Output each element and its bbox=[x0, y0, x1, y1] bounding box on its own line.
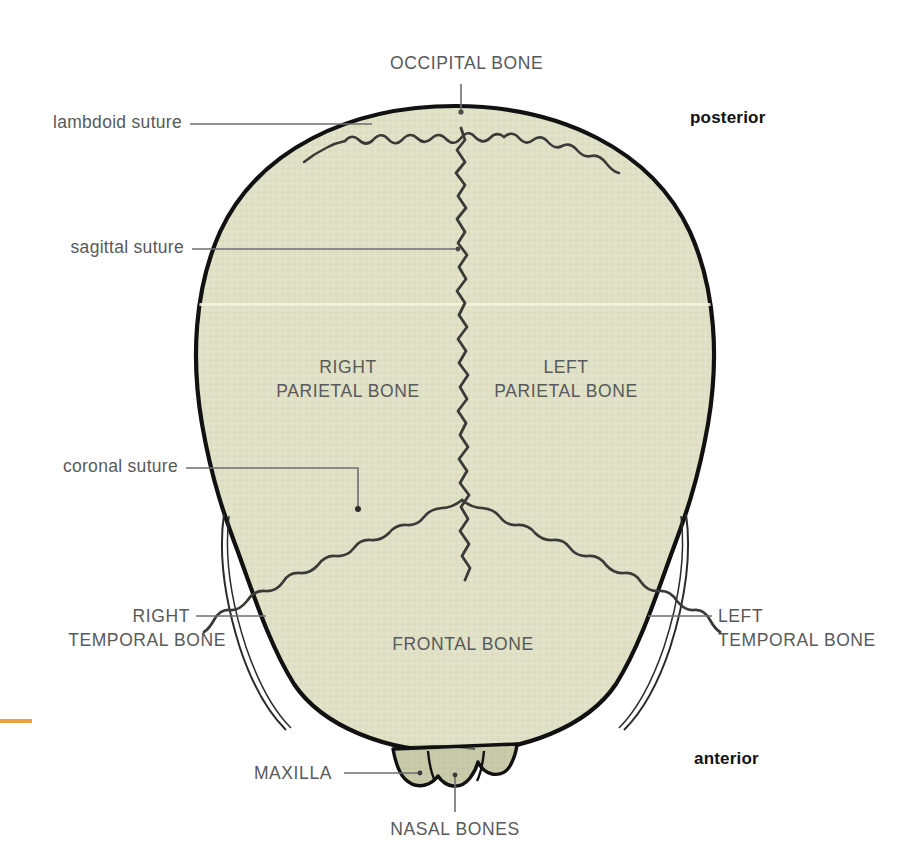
figure-canvas: OCCIPITAL BONE lambdoid suture sagittal … bbox=[0, 0, 899, 866]
orientation-label-posterior: posterior bbox=[690, 108, 765, 128]
label-right-parietal-bone: RIGHT PARIETAL BONE bbox=[268, 356, 428, 403]
label-frontal-bone: FRONTAL BONE bbox=[378, 633, 548, 657]
label-occipital-bone: OCCIPITAL BONE bbox=[390, 52, 535, 76]
label-lambdoid-suture: lambdoid suture bbox=[0, 111, 182, 135]
label-left-temporal-bone-line1: LEFT bbox=[718, 605, 898, 629]
label-nasal-bones: NASAL BONES bbox=[370, 818, 540, 842]
label-left-parietal-bone-line1: LEFT bbox=[486, 356, 646, 380]
label-left-parietal-bone: LEFT PARIETAL BONE bbox=[486, 356, 646, 403]
scan-line-artifact bbox=[0, 303, 899, 306]
label-sagittal-suture: sagittal suture bbox=[0, 236, 184, 260]
label-coronal-suture: coronal suture bbox=[0, 455, 178, 479]
label-right-parietal-bone-line2: PARIETAL BONE bbox=[268, 380, 428, 404]
label-maxilla: MAXILLA bbox=[180, 762, 332, 786]
label-right-temporal-bone: RIGHT TEMPORAL BONE bbox=[10, 605, 190, 652]
label-right-parietal-bone-line1: RIGHT bbox=[268, 356, 428, 380]
label-left-temporal-bone: LEFT TEMPORAL BONE bbox=[718, 605, 898, 652]
label-left-parietal-bone-line2: PARIETAL BONE bbox=[486, 380, 646, 404]
label-right-temporal-bone-line1: RIGHT bbox=[10, 605, 190, 629]
margin-registration-mark bbox=[0, 719, 32, 723]
label-left-temporal-bone-line2: TEMPORAL BONE bbox=[718, 629, 898, 653]
label-right-temporal-bone-line2: TEMPORAL BONE bbox=[10, 629, 226, 653]
orientation-label-anterior: anterior bbox=[694, 749, 759, 769]
